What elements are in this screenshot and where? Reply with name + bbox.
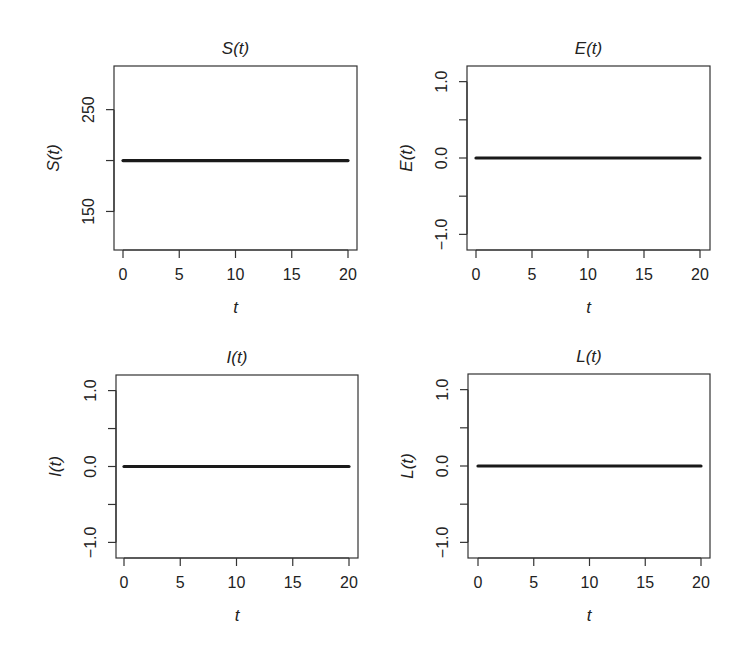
y-tick-label: −1.0 (434, 526, 451, 558)
x-axis-label: t (233, 298, 239, 317)
x-tick-label: 5 (529, 574, 538, 591)
x-tick-label: 15 (636, 574, 654, 591)
chart-title: E(t) (575, 39, 602, 58)
y-axis-label: S(t) (44, 144, 63, 171)
x-tick-label: 20 (691, 266, 709, 283)
y-axis-label: I(t) (46, 456, 65, 477)
x-tick-label: 15 (635, 266, 653, 283)
x-tick-label: 5 (175, 266, 184, 283)
y-tick-label: 0.0 (434, 455, 451, 477)
figure: S(t)05101520t150250S(t) E(t)05101520t−1.… (0, 0, 747, 658)
x-tick-label: 20 (339, 266, 357, 283)
x-tick-label: 5 (528, 266, 537, 283)
panel-i: I(t)05101520t−1.00.01.0I(t) (46, 348, 358, 625)
x-tick-label: 0 (472, 266, 481, 283)
panel-s: S(t)05101520t150250S(t) (44, 39, 357, 317)
x-tick-label: 10 (228, 574, 246, 591)
y-tick-label: 1.0 (434, 378, 451, 400)
x-tick-label: 0 (120, 574, 129, 591)
x-tick-label: 20 (340, 574, 358, 591)
y-tick-label: 1.0 (82, 379, 99, 401)
panel-e: E(t)05101520t−1.00.01.0E(t) (397, 39, 710, 317)
panel-l: L(t)05101520t−1.00.01.0L(t) (398, 347, 710, 625)
x-tick-label: 15 (283, 266, 301, 283)
x-axis-label: t (235, 606, 241, 625)
x-tick-label: 0 (119, 266, 128, 283)
y-tick-label: 1.0 (433, 70, 450, 92)
x-axis-label: t (587, 606, 593, 625)
x-axis-label: t (586, 298, 592, 317)
chart-title: I(t) (227, 348, 248, 367)
x-tick-label: 10 (227, 266, 245, 283)
x-tick-label: 20 (692, 574, 710, 591)
plot-area (114, 66, 357, 250)
y-tick-label: 0.0 (82, 455, 99, 477)
y-tick-label: 0.0 (433, 147, 450, 169)
y-axis-label: E(t) (397, 144, 416, 171)
y-axis-label: L(t) (398, 453, 417, 479)
chart-title: L(t) (576, 347, 602, 366)
y-tick-label: 150 (80, 198, 97, 225)
x-tick-label: 15 (284, 574, 302, 591)
x-tick-label: 10 (579, 266, 597, 283)
chart-title: S(t) (222, 39, 249, 58)
x-tick-label: 0 (474, 574, 483, 591)
y-tick-label: 250 (80, 96, 97, 123)
x-tick-label: 5 (176, 574, 185, 591)
y-tick-label: −1.0 (433, 218, 450, 250)
x-tick-label: 10 (581, 574, 599, 591)
y-tick-label: −1.0 (82, 527, 99, 559)
